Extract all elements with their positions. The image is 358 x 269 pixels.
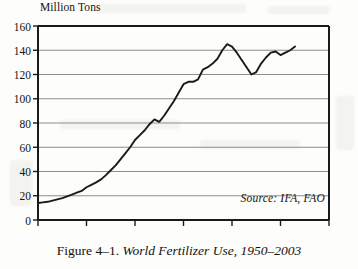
gridlines: [38, 26, 329, 196]
chart-plot-region: Million Tons: [0, 0, 358, 232]
x-tick-label: 1950: [27, 230, 50, 232]
figure-caption-title: World Fertilizer Use, 1950–2003: [122, 243, 301, 258]
figure-caption-number: Figure 4–1.: [57, 243, 119, 258]
y-axis-tick-labels: 160 140 120 100 80 60 40 20 0: [14, 21, 32, 227]
y-tick-label: 0: [25, 215, 31, 227]
y-tick-label: 140: [14, 45, 32, 57]
x-tick-label: 1990: [221, 230, 244, 232]
x-tick-label: 2000: [269, 230, 292, 232]
y-tick-label: 80: [20, 118, 32, 130]
y-tick-label: 120: [14, 69, 32, 81]
x-tick-label: 1960: [75, 230, 98, 232]
x-tick-label: 1970: [124, 230, 147, 232]
y-tick-label: 160: [14, 21, 32, 33]
y-tick-label: 20: [20, 190, 32, 202]
figure-caption: Figure 4–1. World Fertilizer Use, 1950–2…: [0, 243, 358, 259]
x-axis-tick-labels: 1950 1960 1970 1980 1990 2000 2010: [27, 230, 341, 232]
x-tick-label: 2010: [318, 230, 341, 232]
y-tick-label: 60: [20, 142, 32, 154]
source-attribution: Source: IFA, FAO: [241, 192, 325, 204]
x-tick-label: 1980: [172, 230, 195, 232]
y-tick-label: 100: [14, 93, 32, 105]
y-tick-label: 40: [20, 166, 32, 178]
data-series-line: [38, 44, 295, 203]
figure-world-fertilizer-use: Million Tons: [0, 0, 358, 269]
